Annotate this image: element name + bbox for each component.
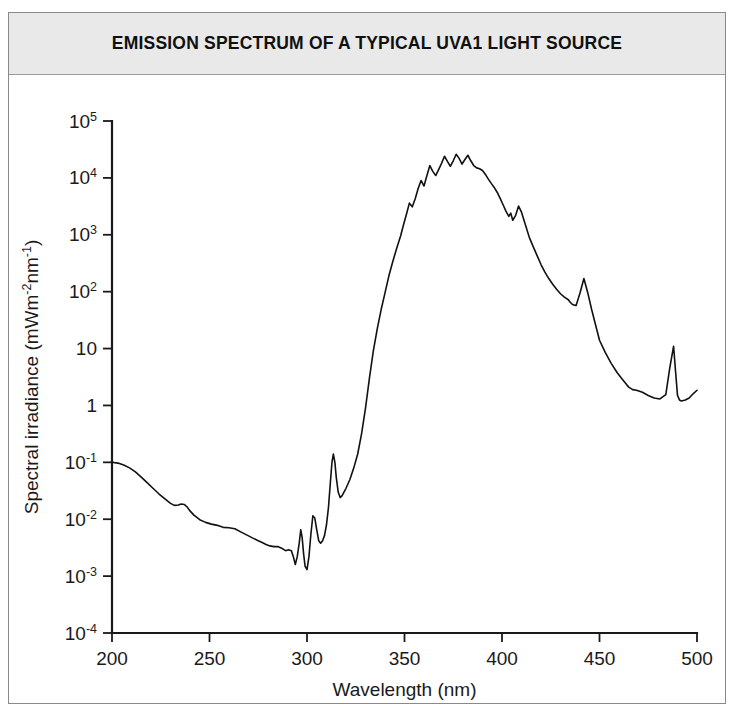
chart-title-band: EMISSION SPECTRUM OF A TYPICAL UVA1 LIGH… bbox=[9, 13, 725, 75]
figure-outer-frame bbox=[8, 12, 726, 704]
chart-title: EMISSION SPECTRUM OF A TYPICAL UVA1 LIGH… bbox=[112, 33, 622, 54]
figure-container: EMISSION SPECTRUM OF A TYPICAL UVA1 LIGH… bbox=[0, 0, 736, 718]
